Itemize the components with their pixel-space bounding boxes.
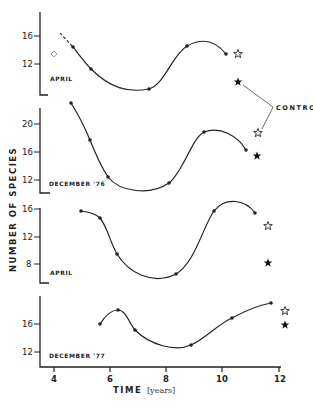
y-tick [34,209,40,264]
x-ticks [54,367,279,372]
control-label: CONTRO [276,104,313,112]
y-tick [34,36,40,64]
x-axis-unit: [years] [147,386,175,395]
y-tick-label: 12 [22,347,33,357]
x-tick-label: 12 [274,374,286,384]
y-tick-label: 16 [22,147,33,157]
species-time-chart: NUMBER OF SPECIES 16 12 APRIL CONTRO 20 … [0,0,313,409]
trend-line [73,41,226,90]
y-tick [34,324,40,352]
control-open-star-icon [264,222,273,230]
panel-december-77 [34,296,289,372]
trend-line [81,201,255,278]
y-tick-label: 20 [22,119,33,129]
y-tick-label: 8 [26,259,31,269]
x-tick-label: 10 [216,374,228,384]
control-leader-lines [243,85,273,129]
y-tick [34,124,40,180]
panel-label: APRIL [50,269,73,276]
control-filled-star-icon [264,259,273,267]
x-tick-label: 4 [51,374,57,384]
y-tick-label: 12 [22,175,33,185]
y-tick-label: 16 [22,319,33,329]
panel-april-1 [34,12,242,95]
y-axis-title: NUMBER OF SPECIES [8,147,18,272]
panel-label: DECEMBER '76 [49,180,105,187]
control-open-star-icon [234,50,243,58]
y-tick-label: 16 [22,204,33,214]
panel-label: APRIL [50,75,73,82]
control-filled-star-icon [281,321,290,329]
trend-line [100,303,271,348]
y-axis-line [40,208,49,283]
x-axis-title: TIME [113,385,142,395]
data-points [79,209,257,276]
data-points [69,101,248,185]
control-filled-star-icon [234,78,243,86]
data-points [71,44,228,91]
x-tick-label: 8 [163,374,169,384]
control-open-star-icon [254,129,263,137]
trend-line [71,103,246,191]
y-axis-line [40,12,48,95]
control-open-star-icon [281,307,290,315]
control-filled-star-icon [253,152,262,160]
open-diamond-marker [51,51,57,57]
panel-label: DECEMBER '77 [49,352,105,359]
y-tick-label: 12 [22,59,33,69]
y-tick-label: 12 [22,232,33,242]
y-tick-label: 16 [22,31,33,41]
data-points [98,301,273,347]
trend-extrapolation [60,33,73,47]
x-tick-label: 6 [107,374,113,384]
